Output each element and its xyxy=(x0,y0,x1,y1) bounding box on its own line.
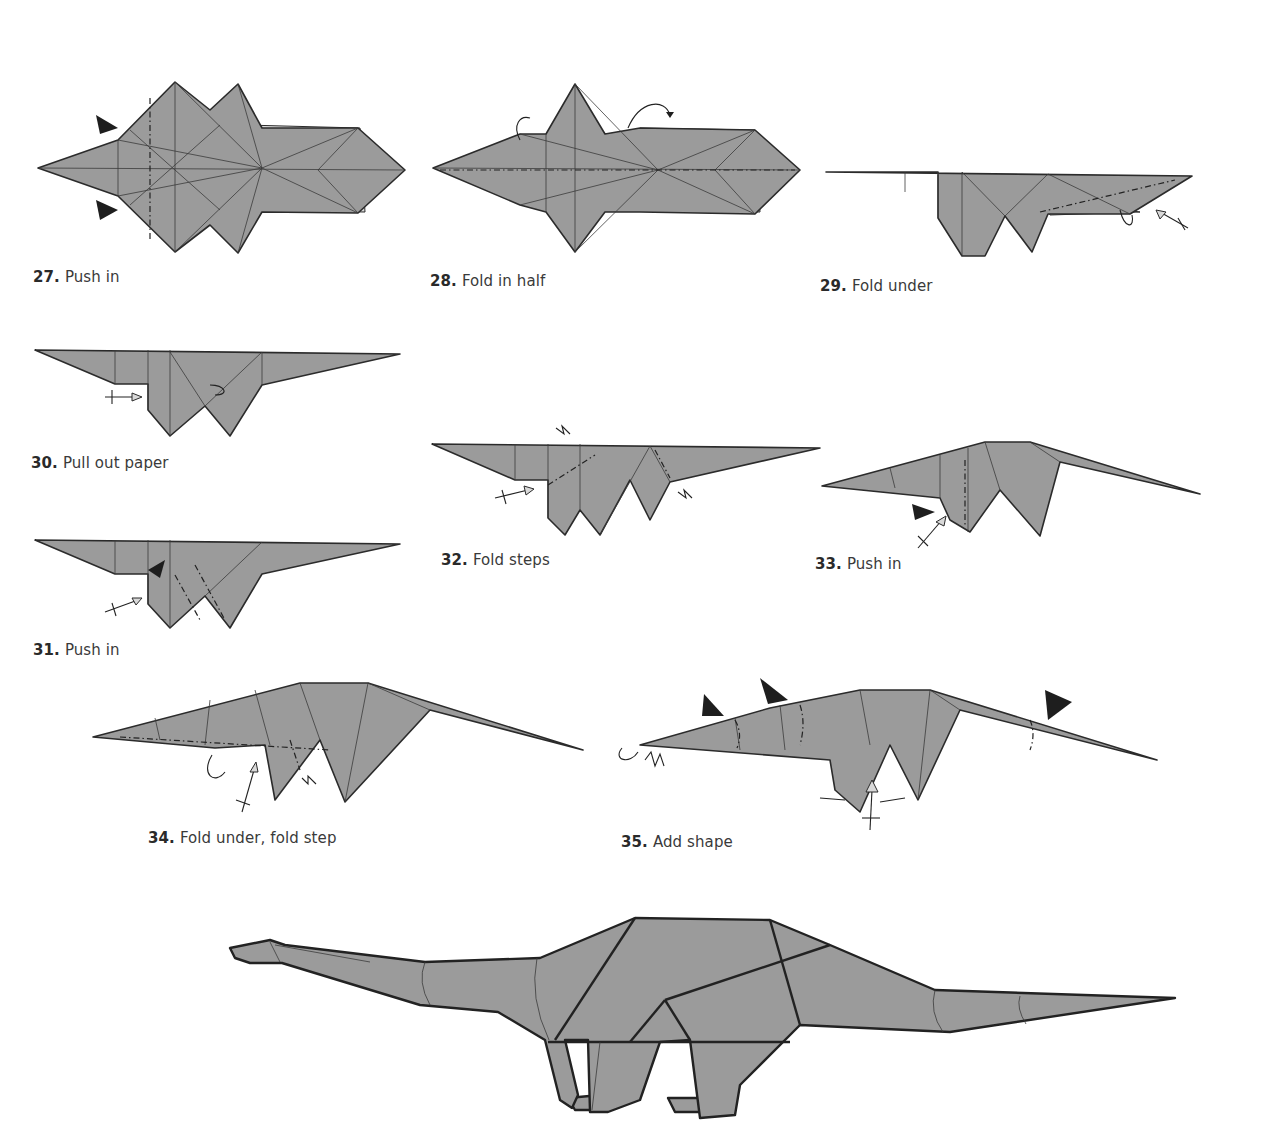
step-text: Add shape xyxy=(653,833,733,851)
step-text: Pull out paper xyxy=(63,454,169,472)
origami-instruction-page: 27.Push in 28.Fold in half 29.Fold under… xyxy=(0,0,1262,1135)
step-number: 34. xyxy=(148,829,175,847)
step-text: Fold steps xyxy=(473,551,550,569)
step-27-label: 27.Push in xyxy=(33,268,120,286)
step-34-diagram xyxy=(93,683,583,812)
step-number: 28. xyxy=(430,272,457,290)
step-27-diagram xyxy=(38,82,405,253)
step-34-label: 34.Fold under, fold step xyxy=(148,829,337,847)
step-text: Fold under xyxy=(852,277,933,295)
step-text: Fold in half xyxy=(462,272,546,290)
step-text: Push in xyxy=(65,268,120,286)
step-30-diagram xyxy=(35,350,400,436)
diagram-canvas xyxy=(0,0,1262,1135)
step-number: 29. xyxy=(820,277,847,295)
step-35-diagram xyxy=(619,678,1157,830)
step-31-diagram xyxy=(35,540,400,628)
step-number: 35. xyxy=(621,833,648,851)
step-31-label: 31.Push in xyxy=(33,641,120,659)
step-text: Push in xyxy=(847,555,902,573)
step-text: Push in xyxy=(65,641,120,659)
step-32-diagram xyxy=(432,426,820,535)
step-number: 27. xyxy=(33,268,60,286)
step-33-diagram xyxy=(822,442,1200,548)
step-text: Fold under, fold step xyxy=(180,829,337,847)
step-28-diagram xyxy=(433,84,800,252)
step-number: 32. xyxy=(441,551,468,569)
step-number: 30. xyxy=(31,454,58,472)
step-28-label: 28.Fold in half xyxy=(430,272,545,290)
step-33-label: 33.Push in xyxy=(815,555,902,573)
step-32-label: 32.Fold steps xyxy=(441,551,550,569)
step-30-label: 30.Pull out paper xyxy=(31,454,169,472)
final-model-diagram xyxy=(230,918,1175,1118)
step-number: 33. xyxy=(815,555,842,573)
step-number: 31. xyxy=(33,641,60,659)
step-29-label: 29.Fold under xyxy=(820,277,933,295)
step-29-diagram xyxy=(826,172,1192,256)
step-35-label: 35.Add shape xyxy=(621,833,733,851)
